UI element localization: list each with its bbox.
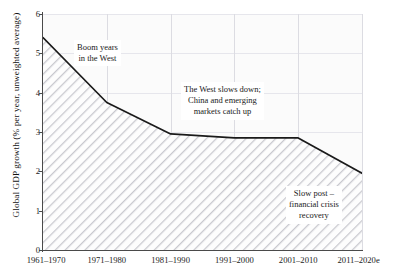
y-tick-mark — [39, 171, 42, 172]
y-tick-mark — [39, 14, 42, 15]
x-axis-tick-6: 2011–2020e — [338, 255, 380, 265]
y-tick-mark — [39, 132, 42, 133]
x-axis-tick-2: 1971–1980 — [87, 255, 126, 265]
y-axis-tick-6: 6 — [12, 9, 40, 19]
annotation-boom-years: Boom years in the West — [74, 40, 121, 66]
y-axis-tick-3: 3 — [12, 127, 40, 137]
y-axis-tick-5: 5 — [12, 48, 40, 58]
y-tick-mark — [39, 250, 42, 251]
y-axis-tick-labels: 0123456 — [8, 0, 40, 280]
x-axis-tick-4: 1991–2000 — [215, 255, 254, 265]
y-axis-tick-0: 0 — [12, 245, 40, 255]
y-axis-tick-4: 4 — [12, 88, 40, 98]
y-tick-mark — [39, 93, 42, 94]
annotation-slow-recovery: Slow post – financial crisis recovery — [286, 186, 342, 224]
x-axis-tick-5: 2001–2010 — [279, 255, 318, 265]
annotation-west-slows-down: The West slows down; China and emerging … — [181, 82, 264, 120]
x-axis-tick-1: 1961–1970 — [27, 255, 66, 265]
gdp-growth-area-chart: Global GDP growth (% per year, unweighte… — [0, 0, 397, 280]
y-tick-mark — [39, 53, 42, 54]
y-axis-tick-2: 2 — [12, 166, 40, 176]
x-axis-line — [42, 250, 363, 251]
x-axis-tick-3: 1981–1990 — [151, 255, 190, 265]
y-axis-tick-1: 1 — [12, 206, 40, 216]
y-tick-mark — [39, 211, 42, 212]
vertical-gridline — [362, 14, 363, 250]
